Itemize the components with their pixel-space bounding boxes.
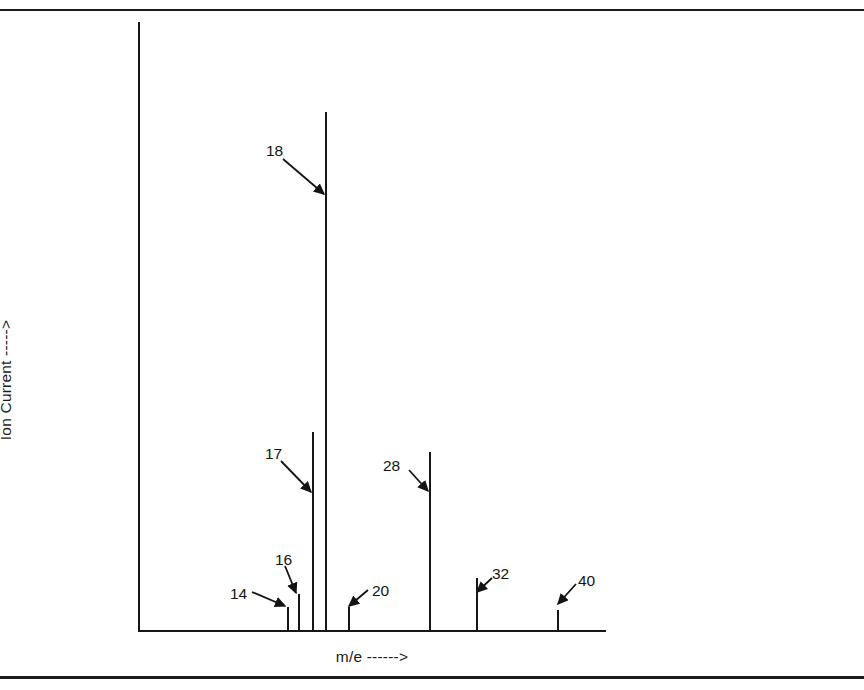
leader-arrow-14	[252, 592, 285, 606]
leader-arrow-28	[409, 470, 428, 491]
peak-label-32: 32	[492, 566, 509, 582]
leader-arrow-32	[477, 578, 492, 592]
peak-label-16: 16	[275, 552, 292, 568]
peak-stem	[429, 452, 431, 630]
y-axis-line	[138, 22, 140, 632]
plot-area: 1416171820283240 Ion Current -----> m/e …	[0, 0, 864, 690]
peak-stem	[476, 578, 478, 630]
peak-stem	[287, 607, 289, 630]
peak-label-40: 40	[578, 573, 595, 589]
leader-arrow-18	[283, 159, 324, 194]
leader-group	[252, 159, 576, 606]
peak-stem	[298, 594, 300, 630]
peak-label-28: 28	[383, 458, 400, 474]
peak-label-17: 17	[265, 446, 282, 462]
peak-stem	[557, 610, 559, 630]
peak-stem	[312, 432, 314, 630]
peak-label-20: 20	[372, 583, 389, 599]
leader-arrow-17	[281, 461, 311, 492]
x-axis-title: m/e ------>	[138, 648, 606, 666]
mass-spectrum-figure: 1416171820283240 Ion Current -----> m/e …	[0, 0, 864, 690]
annotation-leader-lines	[0, 0, 864, 690]
peak-label-14: 14	[230, 586, 247, 602]
peak-stem	[348, 607, 350, 630]
leader-arrow-20	[349, 590, 368, 606]
leader-arrow-40	[558, 584, 576, 604]
peak-stem	[325, 112, 327, 630]
peak-label-18: 18	[266, 143, 283, 159]
y-axis-title: Ion Current ----->	[0, 270, 15, 490]
x-axis-line	[138, 630, 606, 632]
leader-arrow-16	[285, 566, 296, 593]
